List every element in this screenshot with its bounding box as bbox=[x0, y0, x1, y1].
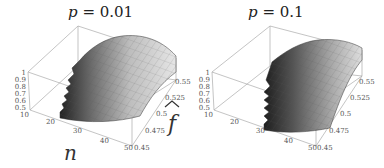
z-axis-ticks: 1 0.9 0.8 0.7 0.6 0.5 bbox=[199, 69, 211, 112]
svg-text:0.55: 0.55 bbox=[359, 78, 375, 86]
svg-text:20: 20 bbox=[46, 118, 55, 126]
svg-text:20: 20 bbox=[230, 118, 239, 126]
plot-panel-p001: p = 0.01 bbox=[0, 0, 192, 168]
svg-text:0.475: 0.475 bbox=[329, 127, 349, 135]
svg-text:0.525: 0.525 bbox=[165, 94, 185, 102]
svg-text:0.525: 0.525 bbox=[350, 94, 370, 102]
svg-text:30: 30 bbox=[256, 127, 265, 135]
plot-panel-p01: p = 0.1 bbox=[192, 0, 384, 168]
svg-text:0.45: 0.45 bbox=[317, 144, 333, 152]
svg-text:0.5: 0.5 bbox=[340, 110, 351, 118]
svg-text:0.5: 0.5 bbox=[156, 110, 167, 118]
n-axis-label: n bbox=[64, 141, 77, 165]
fhat-axis-label: f bbox=[166, 111, 180, 136]
surface-plot-3d: 1 0.9 0.8 0.7 0.6 0.5 10 20 30 40 50 0.4… bbox=[0, 0, 192, 168]
svg-text:10: 10 bbox=[20, 111, 29, 119]
svg-text:40: 40 bbox=[284, 137, 293, 145]
svg-text:0.45: 0.45 bbox=[134, 144, 150, 152]
svg-text:0.475: 0.475 bbox=[145, 127, 165, 135]
surface-plot-3d: 1 0.9 0.8 0.7 0.6 0.5 10 20 30 40 50 0.4… bbox=[192, 0, 384, 168]
svg-text:30: 30 bbox=[73, 127, 82, 135]
svg-text:50: 50 bbox=[124, 144, 133, 152]
svg-text:40: 40 bbox=[100, 137, 109, 145]
svg-text:50: 50 bbox=[308, 144, 317, 152]
svg-text:10: 10 bbox=[204, 111, 213, 119]
z-axis-ticks: 1 0.9 0.8 0.7 0.6 0.5 bbox=[15, 69, 27, 112]
svg-text:0.55: 0.55 bbox=[175, 78, 191, 86]
